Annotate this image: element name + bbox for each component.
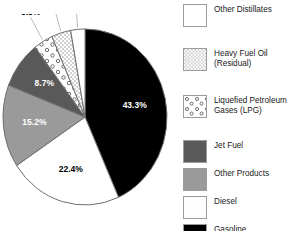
label-leader-line [54, 14, 61, 31]
legend-item-label: Other Products [214, 168, 269, 179]
legend-swatch [183, 224, 207, 231]
pie-chart-area: 43.3%22.4%15.2%8.7%3.8%3.8%2.8% [0, 14, 170, 219]
legend-swatch-fill [184, 141, 206, 162]
legend-item-label: Jet Fuel [214, 140, 243, 151]
legend-swatch [183, 4, 207, 27]
legend-item-label: Other Distillates [214, 4, 272, 15]
legend-swatch-fill [184, 169, 206, 190]
pie-chart-svg: 43.3%22.4%15.2%8.7%3.8%3.8%2.8% [0, 14, 170, 219]
pie-chart-figure: 43.3%22.4%15.2%8.7%3.8%3.8%2.8% Other Di… [0, 0, 300, 231]
legend-item[interactable]: Diesel [183, 196, 237, 219]
pie-slice-label: 3.8% [21, 14, 41, 17]
legend-swatch-fill [184, 197, 206, 218]
legend-item-label: Liquefied Petroleum Gases (LPG) [214, 95, 287, 115]
legend-item[interactable]: Jet Fuel [183, 140, 243, 163]
legend-swatch-fill [184, 225, 206, 231]
legend-swatch [183, 196, 207, 219]
pie-slice-label: 15.2% [22, 117, 47, 127]
legend-swatch-fill [184, 49, 206, 70]
legend-item-label: Gasoline [214, 224, 246, 231]
pie-slice-label: 43.3% [123, 100, 148, 110]
legend-item[interactable]: Gasoline [183, 224, 246, 231]
legend-item[interactable]: Liquefied Petroleum Gases (LPG) [183, 95, 287, 118]
legend-item-label: Diesel [214, 196, 237, 207]
legend-swatch [183, 95, 207, 118]
legend-item[interactable]: Other Distillates [183, 4, 272, 27]
pie-slice-label: 8.7% [35, 78, 55, 88]
pie-slice-label: 22.4% [59, 164, 84, 174]
label-leader-line [31, 18, 43, 40]
label-leader-line [76, 14, 78, 28]
legend-swatch-fill [184, 5, 206, 26]
legend-swatch [183, 48, 207, 71]
legend-swatch [183, 140, 207, 163]
legend-item-label: Heavy Fuel Oil (Residual) [214, 48, 268, 68]
legend-swatch-fill [184, 96, 206, 117]
legend-item[interactable]: Other Products [183, 168, 269, 191]
chart-legend: Other DistillatesHeavy Fuel Oil (Residua… [183, 4, 300, 227]
legend-item[interactable]: Heavy Fuel Oil (Residual) [183, 48, 268, 71]
legend-swatch [183, 168, 207, 191]
